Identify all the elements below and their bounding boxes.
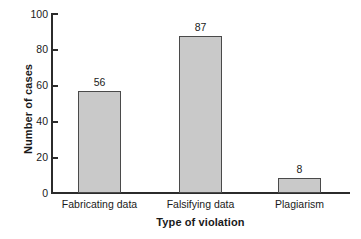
bar-chart: Number of cases 100 80 60 40 20 0 56 87 … xyxy=(0,0,361,239)
y-tick-label-40: 40 xyxy=(12,116,48,127)
y-tick-label-80: 80 xyxy=(12,44,48,55)
bar-plagiarism xyxy=(278,178,321,193)
bar-fabricating-data xyxy=(78,91,121,193)
y-tick-mark-40 xyxy=(53,121,58,123)
y-tick-label-60: 60 xyxy=(12,80,48,91)
y-tick-mark-80 xyxy=(53,49,58,51)
y-tick-mark-20 xyxy=(53,157,58,159)
y-tick-mark-60 xyxy=(53,85,58,87)
y-tick-label-0: 0 xyxy=(12,188,48,199)
bar-value-falsifying-data: 87 xyxy=(171,22,231,33)
bar-falsifying-data xyxy=(179,36,222,193)
x-category-label-falsifying-data: Falsifying data xyxy=(146,199,256,210)
y-tick-mark-100 xyxy=(53,13,58,15)
x-category-label-plagiarism: Plagiarism xyxy=(245,199,355,210)
y-axis-line xyxy=(51,13,53,194)
x-category-label-fabricating-data: Fabricating data xyxy=(45,199,155,210)
y-tick-label-100: 100 xyxy=(12,9,48,20)
bar-value-fabricating-data: 56 xyxy=(70,77,130,88)
bar-value-plagiarism: 8 xyxy=(270,164,330,175)
y-tick-label-20: 20 xyxy=(12,152,48,163)
x-axis-title: Type of violation xyxy=(51,216,350,228)
